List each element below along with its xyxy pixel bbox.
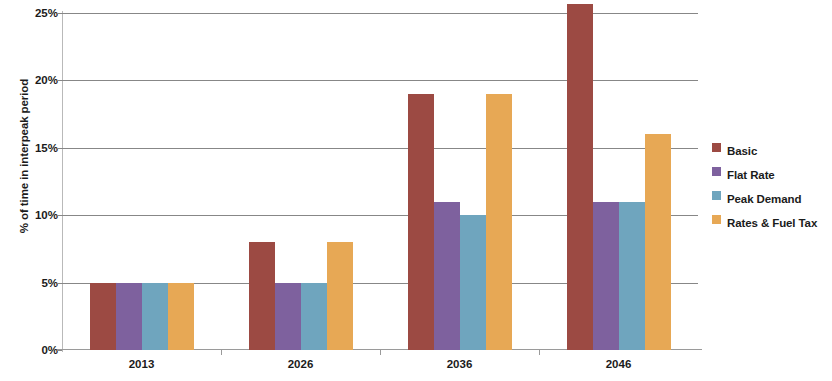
legend-label: Flat Rate <box>727 169 775 181</box>
bar <box>249 242 275 350</box>
x-tick-label: 2013 <box>129 358 155 370</box>
bar-group <box>567 13 671 350</box>
x-tick-mark <box>380 350 381 355</box>
bar <box>168 283 194 350</box>
bar <box>301 283 327 350</box>
legend-swatch <box>712 215 721 224</box>
chart-legend: BasicFlat RatePeak DemandRates & Fuel Ta… <box>712 139 830 235</box>
x-tick-label: 2046 <box>606 358 632 370</box>
y-tick-mark <box>57 215 62 216</box>
legend-label: Basic <box>727 145 757 157</box>
bar-group <box>408 13 512 350</box>
bar <box>567 4 593 350</box>
legend-swatch <box>712 167 721 176</box>
x-tick-mark <box>539 350 540 355</box>
legend-swatch <box>712 191 721 200</box>
bar <box>327 242 353 350</box>
legend-label: Peak Demand <box>727 193 801 205</box>
bar <box>619 202 645 350</box>
legend-item: Rates & Fuel Tax <box>712 211 830 235</box>
bar <box>90 283 116 350</box>
y-tick-label: 20% <box>20 74 58 86</box>
bar <box>486 94 512 350</box>
bar-group <box>90 13 194 350</box>
bar <box>275 283 301 350</box>
y-tick-mark <box>57 80 62 81</box>
bar <box>434 202 460 350</box>
bar <box>408 94 434 350</box>
y-tick-label: 10% <box>20 209 58 221</box>
x-tick-label: 2026 <box>288 358 314 370</box>
y-tick-label: 5% <box>20 277 58 289</box>
legend-label: Rates & Fuel Tax <box>727 217 817 229</box>
y-tick-label: 0% <box>20 344 58 356</box>
bar-group <box>249 13 353 350</box>
legend-swatch <box>712 143 721 152</box>
legend-item: Peak Demand <box>712 187 830 211</box>
bar <box>645 134 671 350</box>
y-axis-line <box>62 11 63 352</box>
y-axis-tick-labels: 0%5%10%15%20%25% <box>20 0 58 381</box>
legend-item: Flat Rate <box>712 163 830 187</box>
bar-chart: % of time in interpeak period 0%5%10%15%… <box>0 0 832 381</box>
y-tick-label: 15% <box>20 142 58 154</box>
y-tick-mark <box>57 148 62 149</box>
x-tick-label: 2036 <box>447 358 473 370</box>
bar <box>142 283 168 350</box>
legend-item: Basic <box>712 139 830 163</box>
bar <box>460 215 486 350</box>
y-tick-mark <box>57 283 62 284</box>
y-tick-label: 25% <box>20 7 58 19</box>
bar <box>116 283 142 350</box>
y-tick-mark <box>57 350 62 351</box>
plot-area <box>62 13 698 350</box>
bar <box>593 202 619 350</box>
x-tick-mark <box>221 350 222 355</box>
y-tick-mark <box>57 13 62 14</box>
